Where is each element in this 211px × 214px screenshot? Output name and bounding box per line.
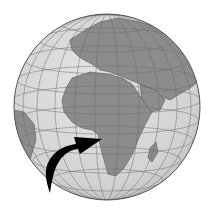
- globe-illustration: [0, 0, 211, 214]
